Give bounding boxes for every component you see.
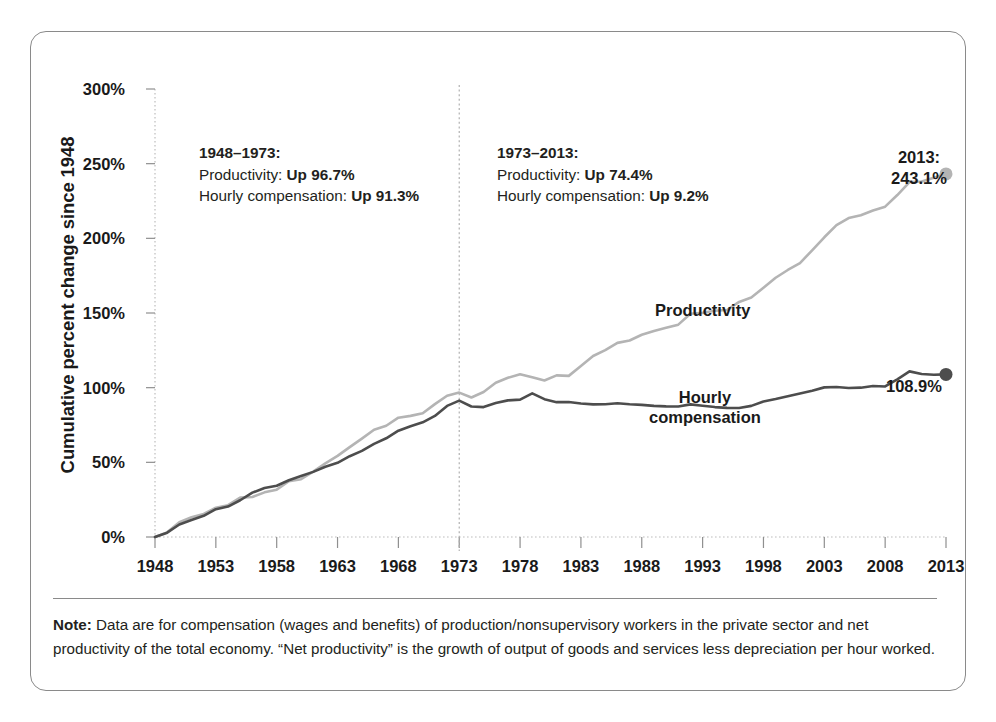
x-tick-label: 1983 [563,557,600,576]
series-label-productivity: Productivity [655,300,750,320]
x-tick-label: 1968 [380,557,417,576]
series-label-line1: Hourly [649,387,761,407]
figure-card: Cumulative percent change since 1948 0%5… [30,31,966,691]
x-tick-label: 1993 [684,557,721,576]
annotation-line: Hourly compensation: Up 91.3% [199,185,419,207]
series-label-line2: compensation [649,407,761,427]
annotation-line-value: Up 96.7% [287,166,355,183]
x-tick-label: 1953 [197,557,234,576]
annotation-heading: 1948–1973: [199,142,419,164]
annotation-line-value: Up 9.2% [649,187,709,204]
x-tick-label: 1963 [319,557,356,576]
x-tick-label: 2008 [867,557,904,576]
endpoint-callout-compensation: 108.9% [886,376,942,397]
x-tick-label: 1998 [745,557,782,576]
x-tick-label: 1973 [441,557,478,576]
note-text: Data are for compensation (wages and ben… [53,616,935,657]
note-block: Note: Data are for compensation (wages a… [53,598,937,661]
x-tick-label: 1988 [623,557,660,576]
annotation-line: Productivity: Up 96.7% [199,164,419,186]
x-tick-label: 2003 [806,557,843,576]
series-label-hourly-compensation: Hourly compensation [649,387,761,427]
annotation-period-1948-1973: 1948–1973: Productivity: Up 96.7% Hourly… [199,142,419,207]
endpoint-year: 2013: [891,147,947,168]
chart-plot [31,32,967,592]
x-tick-label: 1958 [258,557,295,576]
annotation-period-1973-2013: 1973–2013: Productivity: Up 74.4% Hourly… [497,142,709,207]
annotation-line-prefix: Productivity: [199,166,287,183]
annotation-line-value: Up 74.4% [585,166,653,183]
endpoint-value: 108.9% [886,376,942,397]
annotation-line-prefix: Productivity: [497,166,585,183]
annotation-line: Productivity: Up 74.4% [497,164,709,186]
annotation-line-prefix: Hourly compensation: [497,187,649,204]
plot-area: Cumulative percent change since 1948 0%5… [31,32,967,592]
x-tick-label: 1948 [137,557,174,576]
endpoint-value: 243.1% [891,168,947,189]
annotation-line-prefix: Hourly compensation: [199,187,351,204]
x-tick-label: 2013 [928,557,965,576]
annotation-line-value: Up 91.3% [351,187,419,204]
annotation-line: Hourly compensation: Up 9.2% [497,185,709,207]
note-label: Note: [53,616,92,633]
endpoint-callout-productivity: 2013: 243.1% [891,147,947,189]
x-tick-label: 1978 [502,557,539,576]
annotation-heading: 1973–2013: [497,142,709,164]
